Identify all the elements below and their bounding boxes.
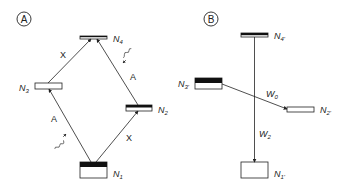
label-x-upper: X: [60, 50, 66, 60]
svg-text:N1: N1: [113, 169, 123, 180]
level-n4-prime: N4': [241, 31, 286, 42]
energy-level-diagram: A N4 N3 N2 N1 X A: [0, 0, 351, 195]
level-n3-prime: N3': [178, 78, 222, 90]
panel-a: A N4 N3 N2 N1 X A: [17, 12, 169, 180]
svg-text:N2: N2: [158, 105, 169, 116]
panel-b: B N4' N3' N2' N1' W0 W2: [178, 12, 332, 180]
svg-text:N3: N3: [19, 83, 30, 94]
panel-b-badge: B: [204, 12, 218, 26]
level-n1-prime: N1': [241, 162, 286, 180]
svg-text:B: B: [208, 14, 215, 25]
transition-n3-n4: [48, 39, 91, 83]
label-w2: W2: [259, 129, 272, 140]
label-a-upper: A: [130, 72, 136, 82]
level-n3: N3: [19, 83, 62, 94]
svg-text:A: A: [21, 14, 28, 25]
label-w0: W0: [266, 89, 279, 100]
label-x-lower: X: [126, 133, 132, 143]
photon-icon-lower: [54, 134, 66, 150]
label-a-lower: A: [51, 114, 57, 124]
svg-text:N2': N2': [320, 105, 332, 116]
level-n2: N2: [126, 105, 169, 116]
svg-text:N4': N4': [274, 31, 286, 42]
photon-icon-upper: [121, 48, 132, 63]
svg-text:N4: N4: [113, 34, 124, 45]
panel-a-badge: A: [17, 12, 31, 26]
transition-n1-n3: [49, 89, 91, 162]
level-n2-prime: N2': [287, 105, 332, 116]
svg-text:N1': N1': [274, 169, 286, 180]
svg-text:N3': N3': [178, 79, 190, 90]
level-n1: N1: [80, 162, 123, 180]
